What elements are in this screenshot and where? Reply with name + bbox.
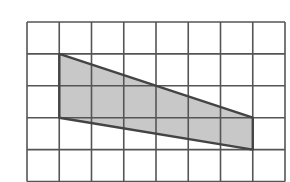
grid-diagram <box>0 0 290 182</box>
